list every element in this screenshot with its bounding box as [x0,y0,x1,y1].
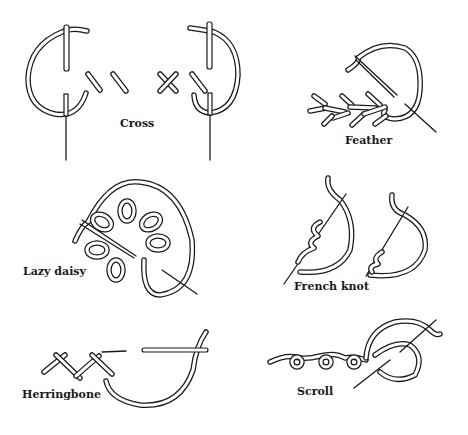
label-lazy-daisy: Lazy daisy [23,265,86,278]
label-french-knot: French knot [294,280,369,293]
label-herringbone: Herringbone [22,388,101,401]
cross-stitch-illustration [28,22,238,160]
label-scroll: Scroll [297,385,333,398]
label-cross: Cross [120,117,154,130]
stitches-illustration [0,0,468,435]
french-knot-stitch-illustration [284,178,425,284]
feather-stitch-illustration [310,46,436,132]
lazy-daisy-stitch-illustration [75,182,197,295]
scroll-stitch-illustration [270,320,440,388]
label-feather: Feather [345,134,392,147]
